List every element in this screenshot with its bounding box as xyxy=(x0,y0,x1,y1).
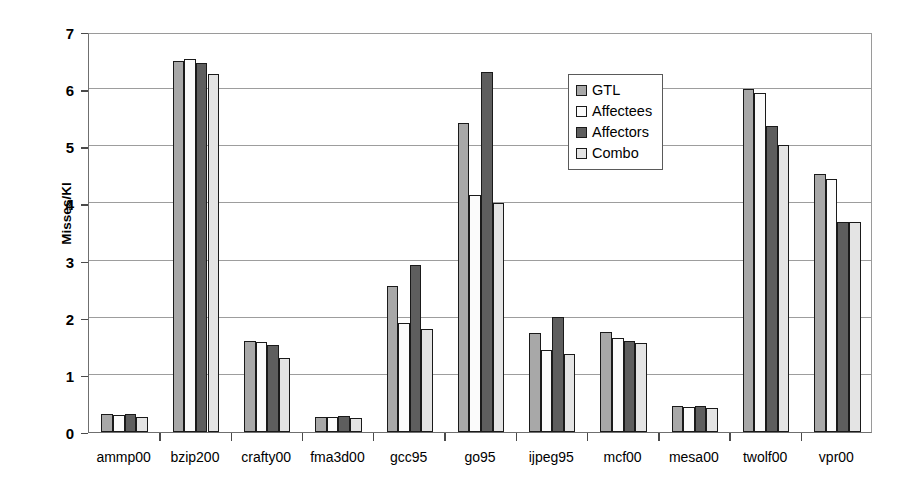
bar xyxy=(279,358,291,432)
bar xyxy=(778,145,790,432)
x-axis-tick-mark xyxy=(516,433,517,441)
bar xyxy=(552,317,564,432)
bar xyxy=(814,174,826,432)
bar xyxy=(600,332,612,432)
bar xyxy=(327,417,339,432)
y-axis-tick-label: 1 xyxy=(44,367,74,384)
x-axis-tick-label: ijpeg95 xyxy=(529,449,574,465)
x-axis-tick-label: fma3d00 xyxy=(310,449,364,465)
bar xyxy=(244,341,256,432)
bar-group xyxy=(232,34,303,432)
x-axis-tick-mark xyxy=(587,433,588,441)
y-axis-tick-mark xyxy=(81,262,88,263)
bar xyxy=(113,415,125,432)
bar xyxy=(338,416,350,432)
legend-item-label: Combo xyxy=(592,146,639,161)
x-axis-tick-mark xyxy=(302,433,303,441)
bar-chart: Misses/KI 01234567 ammp00bzip200crafty00… xyxy=(0,0,909,493)
bar xyxy=(743,89,755,432)
bar-group xyxy=(160,34,231,432)
legend-item-label: GTL xyxy=(592,83,620,98)
bar xyxy=(635,343,647,432)
bar xyxy=(184,59,196,432)
bar xyxy=(469,195,481,432)
bar xyxy=(683,407,695,432)
bar xyxy=(837,222,849,432)
legend-swatch-icon xyxy=(576,148,587,159)
bar xyxy=(826,179,838,432)
bar-group xyxy=(89,34,160,432)
bar-group xyxy=(659,34,730,432)
legend-item: Affectees xyxy=(576,101,652,122)
bar xyxy=(387,286,399,432)
bar xyxy=(315,417,327,432)
bar xyxy=(481,72,493,432)
bar-group xyxy=(303,34,374,432)
x-axis-tick-label: mcf00 xyxy=(603,449,641,465)
x-axis-tick-label: twolf00 xyxy=(743,449,787,465)
y-axis-tick-label: 7 xyxy=(44,25,74,42)
y-axis-tick-label: 3 xyxy=(44,253,74,270)
x-axis-tick-label: vpr00 xyxy=(819,449,854,465)
legend-item: Affectors xyxy=(576,122,652,143)
legend-item-label: Affectees xyxy=(592,104,652,119)
plot-area xyxy=(88,33,872,433)
y-axis-tick-mark xyxy=(81,204,88,205)
x-axis-tick-mark xyxy=(373,433,374,441)
y-axis-tick-mark xyxy=(81,433,88,434)
bar xyxy=(208,74,220,432)
bar xyxy=(398,323,410,432)
x-axis-tick-label: go95 xyxy=(464,449,495,465)
bar xyxy=(125,414,137,432)
y-axis-tick-mark xyxy=(81,147,88,148)
y-axis-tick-label: 5 xyxy=(44,139,74,156)
bar xyxy=(421,329,433,432)
x-axis-tick-label: mesa00 xyxy=(669,449,719,465)
x-axis-tick-mark xyxy=(444,433,445,441)
legend-swatch-icon xyxy=(576,85,587,96)
bar xyxy=(136,417,148,432)
bar xyxy=(541,350,553,432)
x-axis-tick-mark xyxy=(729,433,730,441)
x-axis-tick-mark xyxy=(159,433,160,441)
y-axis-tick-mark xyxy=(81,376,88,377)
bar xyxy=(612,338,624,432)
bar xyxy=(256,342,268,432)
y-axis-tick-label: 6 xyxy=(44,82,74,99)
bar-group xyxy=(374,34,445,432)
legend-item: Combo xyxy=(576,143,652,164)
bar xyxy=(849,222,861,432)
legend: GTLAffecteesAffectorsCombo xyxy=(568,74,663,170)
y-axis-tick-mark xyxy=(81,319,88,320)
bar xyxy=(564,354,576,432)
bar xyxy=(173,61,185,432)
bar xyxy=(706,408,718,432)
y-axis-tick-label: 2 xyxy=(44,310,74,327)
x-axis-tick-mark xyxy=(231,433,232,441)
x-axis-tick-label: gcc95 xyxy=(390,449,427,465)
legend-swatch-icon xyxy=(576,127,587,138)
bar xyxy=(410,265,422,432)
y-axis-tick-label: 0 xyxy=(44,425,74,442)
bar xyxy=(196,63,208,432)
y-axis-tick-label: 4 xyxy=(44,196,74,213)
bar xyxy=(101,414,113,432)
bar xyxy=(350,418,362,432)
bar xyxy=(529,333,541,432)
bar-group xyxy=(802,34,873,432)
bar xyxy=(493,203,505,432)
bar xyxy=(754,93,766,432)
bar xyxy=(458,123,470,432)
bar xyxy=(672,406,684,432)
bar xyxy=(624,341,636,432)
legend-item: GTL xyxy=(576,80,652,101)
bar-group xyxy=(730,34,801,432)
legend-item-label: Affectors xyxy=(592,125,649,140)
x-axis-tick-mark xyxy=(801,433,802,441)
bar xyxy=(267,345,279,432)
y-axis-tick-mark xyxy=(81,90,88,91)
bar xyxy=(766,126,778,432)
x-axis-tick-mark xyxy=(658,433,659,441)
x-axis-tick-label: crafty00 xyxy=(241,449,291,465)
bar-group xyxy=(445,34,516,432)
